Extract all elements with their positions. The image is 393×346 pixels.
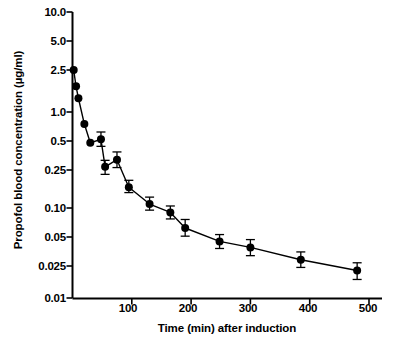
data-point [181,224,189,232]
data-markers [70,66,361,274]
data-point [72,82,80,90]
data-point [86,139,94,147]
data-point [101,163,109,171]
plot-area [0,0,393,346]
data-point [74,94,82,102]
chart-figure: Propofol blood concentration (µg/ml) Tim… [0,0,393,346]
data-point [125,183,133,191]
data-point [70,66,78,74]
data-point [113,156,121,164]
data-point [80,120,88,128]
data-point [97,135,105,143]
data-line [74,70,357,270]
data-point [166,208,174,216]
data-point [146,200,154,208]
data-point [216,237,224,245]
data-point [246,243,254,251]
data-point [353,266,361,274]
error-bars [96,132,361,279]
data-point [297,256,305,264]
